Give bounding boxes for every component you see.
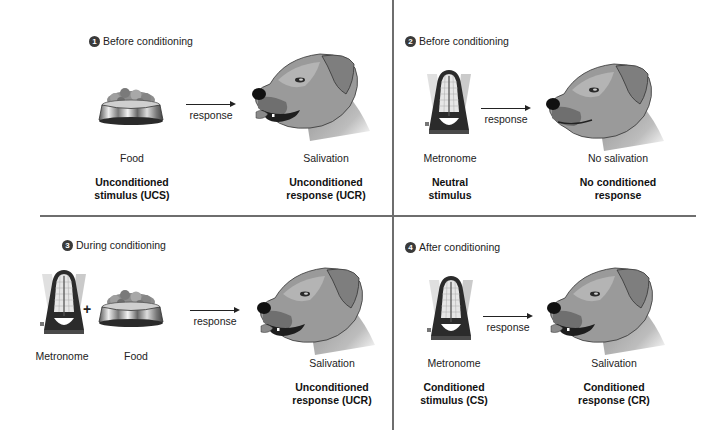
response-type-label: Conditioned response (CR)	[560, 381, 668, 407]
arrow-head-icon	[234, 307, 240, 313]
response-type-label: Unconditioned response (UCR)	[274, 176, 378, 202]
response-arrow: response	[190, 307, 240, 333]
arrow-label: response	[481, 113, 531, 125]
arrow-line	[190, 310, 236, 311]
panel-1-heading: 1 Before conditioning	[89, 35, 193, 47]
dog-head-salivating-icon	[545, 260, 670, 360]
stimulus-type-label: Conditioned stimulus (CS)	[406, 381, 502, 407]
stimulus-item-label: Food	[100, 152, 164, 164]
arrow-head-icon	[527, 313, 533, 319]
response-arrow: response	[483, 313, 533, 339]
dog-state-label: No salivation	[568, 152, 668, 164]
dog-head-closed-mouth-icon	[544, 56, 669, 156]
dog-state-label: Salivation	[278, 152, 374, 164]
panel-4-heading: 4 After conditioning	[405, 241, 500, 253]
stimulus-item-label: Metronome	[412, 152, 488, 164]
arrow-label: response	[186, 109, 236, 121]
response-arrow: response	[481, 105, 531, 131]
dog-state-label: Salivation	[566, 357, 662, 369]
arrow-label: response	[483, 321, 533, 333]
dog-state-label: Salivation	[284, 357, 380, 369]
response-type-label: No conditioned response	[560, 176, 676, 202]
arrow-line	[186, 104, 232, 105]
stimulus-type-label: Unconditioned stimulus (UCS)	[82, 176, 182, 202]
step-number-badge: 1	[89, 36, 100, 47]
stimulus-item-label: Metronome	[416, 357, 492, 369]
step-number-badge: 3	[62, 240, 73, 251]
food-bowl-icon	[99, 86, 165, 128]
food-bowl-icon	[99, 288, 165, 330]
response-type-label: Unconditioned response (UCR)	[280, 381, 384, 407]
plus-sign: +	[83, 301, 91, 317]
metronome-icon	[425, 276, 477, 342]
dog-head-salivating-icon	[250, 46, 375, 146]
dog-head-salivating-icon	[255, 260, 380, 360]
step-number-badge: 4	[405, 242, 416, 253]
stimulus-type-label: Neutral stimulus	[412, 176, 488, 202]
metronome-icon	[423, 70, 475, 136]
panel-3-heading: 3 During conditioning	[62, 239, 166, 251]
arrow-head-icon	[230, 101, 236, 107]
stimulus-item-label: Food	[116, 350, 156, 362]
panel-2-heading: 2 Before conditioning	[405, 35, 509, 47]
step-number-badge: 2	[405, 36, 416, 47]
stimulus-item-label: Metronome	[26, 350, 98, 362]
arrow-line	[483, 316, 529, 317]
arrow-line	[481, 108, 527, 109]
horizontal-divider	[40, 215, 696, 217]
response-arrow: response	[186, 101, 236, 127]
arrow-head-icon	[525, 105, 531, 111]
arrow-label: response	[190, 315, 240, 327]
